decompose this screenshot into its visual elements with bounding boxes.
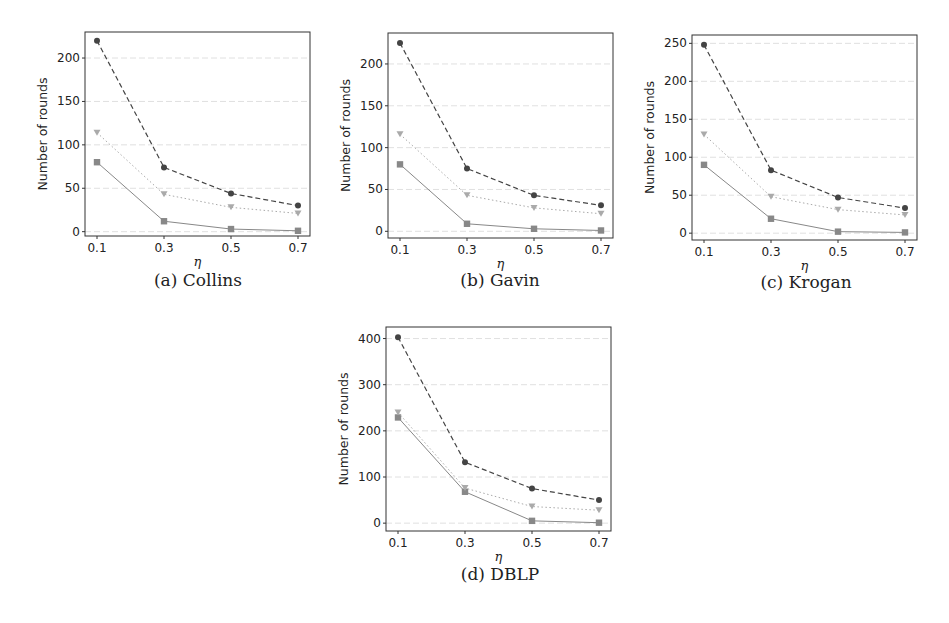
square-marker [596, 519, 602, 525]
y-axis-label: Number of rounds [336, 372, 351, 485]
x-tick-label: 0.5 [522, 536, 541, 550]
y-tick-label: 0 [373, 516, 381, 530]
x-tick-label: 0.7 [589, 536, 608, 550]
chart-dblp: 01002003004000.10.30.50.7ηNumber of roun… [0, 0, 949, 623]
y-tick-label: 400 [358, 332, 381, 346]
square-marker [529, 518, 535, 524]
circle-marker [596, 497, 602, 503]
plot-frame [386, 327, 611, 531]
x-tick-label: 0.3 [455, 536, 474, 550]
caption-dblp: (d) DBLP [461, 564, 539, 584]
x-tick-label: 0.1 [388, 536, 407, 550]
y-tick-label: 300 [358, 378, 381, 392]
circle-marker [395, 334, 401, 340]
triangle-marker [596, 507, 603, 513]
series-line-triangle-dotted [398, 412, 599, 510]
series-line-circle-dashed [398, 337, 599, 500]
circle-marker [462, 459, 468, 465]
x-axis-label: η [495, 549, 503, 564]
y-tick-label: 200 [358, 424, 381, 438]
plot-dblp: 01002003004000.10.30.50.7ηNumber of roun… [0, 0, 949, 623]
circle-marker [529, 486, 535, 492]
y-tick-label: 100 [358, 470, 381, 484]
series-line-square-solid [398, 417, 599, 522]
